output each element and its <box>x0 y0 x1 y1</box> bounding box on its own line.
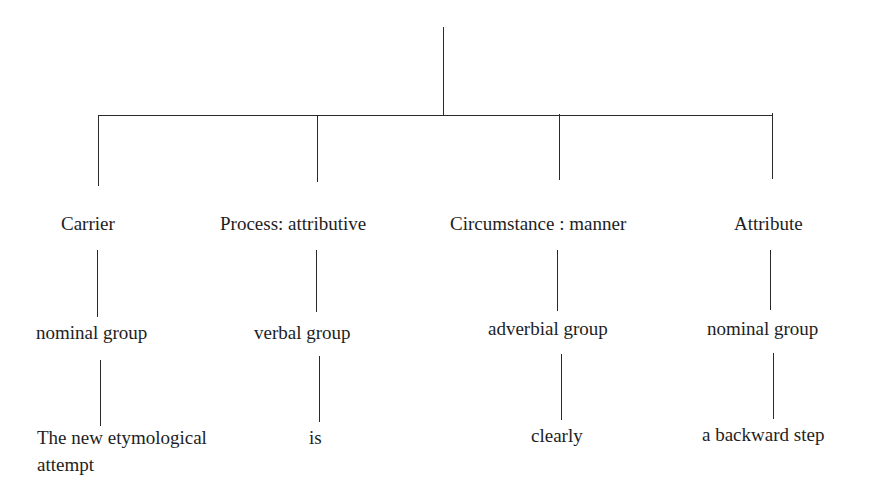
text-label-circumstance: clearly <box>531 425 583 447</box>
group-line-attribute <box>770 250 771 310</box>
text-label-process: is <box>309 427 322 449</box>
branch-bar-line <box>98 115 773 116</box>
function-label-circumstance: Circumstance : manner <box>450 213 626 235</box>
text-line-process <box>319 356 320 422</box>
function-label-carrier: Carrier <box>61 213 115 235</box>
text-line-circumstance <box>561 354 562 420</box>
group-line-carrier <box>97 250 98 317</box>
group-label-attribute: nominal group <box>707 318 818 340</box>
branch-line-carrier <box>98 116 99 186</box>
group-line-circumstance <box>557 250 558 311</box>
function-label-process: Process: attributive <box>220 213 366 235</box>
branch-line-attribute <box>772 113 773 179</box>
text-line-carrier <box>100 360 101 426</box>
text-label-carrier-line1: The new etymological <box>37 427 207 449</box>
text-label-attribute: a backward step <box>702 424 824 446</box>
group-label-carrier: nominal group <box>36 322 147 344</box>
group-line-process <box>316 250 317 312</box>
group-label-circumstance: adverbial group <box>488 318 608 340</box>
function-label-attribute: Attribute <box>734 213 803 235</box>
text-line-attribute <box>773 353 774 419</box>
text-label-carrier-line2: attempt <box>37 454 94 476</box>
group-label-process: verbal group <box>254 322 351 344</box>
branch-line-process <box>317 115 318 182</box>
branch-line-circumstance <box>559 114 560 180</box>
root-stem-line <box>443 27 444 115</box>
